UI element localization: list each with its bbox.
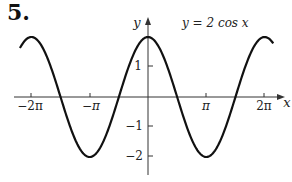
figure: 5. −2π −π π 2π x 1 −1 −2 y y: [0, 0, 292, 182]
y-tick-label: 1: [134, 59, 142, 73]
x-tick-label: −π: [82, 99, 101, 113]
y-tick-label: −1: [125, 119, 143, 133]
cosine-graph: −2π −π π 2π x 1 −1 −2 y y = 2 cos x: [0, 0, 292, 182]
y-axis-arrow-icon: [145, 17, 151, 25]
x-tick-label: −2π: [17, 99, 43, 113]
x-tick-label: π: [201, 99, 211, 113]
x-axis-label: x: [283, 95, 291, 110]
y-axis-label: y: [132, 15, 141, 30]
x-tick-label: 2π: [256, 99, 272, 113]
y-tick-label: −2: [125, 149, 143, 163]
problem-number: 5.: [7, 0, 30, 25]
y-ticks: [148, 66, 153, 156]
equation-label: y = 2 cos x: [181, 16, 249, 30]
